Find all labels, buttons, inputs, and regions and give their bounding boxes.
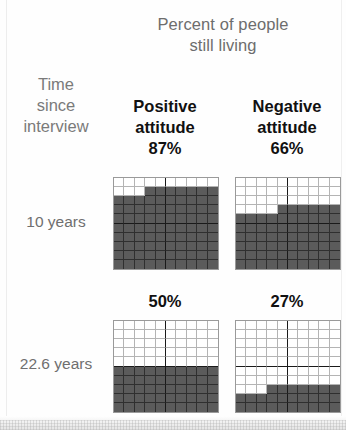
waffle-cell <box>187 321 197 330</box>
waffle-cell <box>278 178 288 187</box>
waffle-cell <box>156 357 166 366</box>
waffle-cell <box>187 196 197 205</box>
waffle-cell <box>319 339 329 348</box>
waffle-cell <box>246 321 256 330</box>
waffle-cell <box>156 321 166 330</box>
waffle-cell <box>208 385 218 394</box>
waffle-cell <box>330 224 340 233</box>
waffle-cell <box>309 205 319 214</box>
waffle-cell <box>257 242 267 251</box>
waffle-cell <box>176 205 186 214</box>
waffle-cell <box>288 214 298 223</box>
waffle-cell <box>176 330 186 339</box>
waffle-cell <box>309 394 319 403</box>
waffle-cell <box>135 242 145 251</box>
waffle-cell <box>298 260 308 269</box>
row-label-22-6-years: 22.6 years <box>4 355 108 373</box>
waffle-grid-negative-10-years <box>235 177 341 270</box>
waffle-cell <box>236 339 246 348</box>
waffle-cell <box>124 178 134 187</box>
waffle-cell <box>197 214 207 223</box>
waffle-cell <box>319 224 329 233</box>
waffle-cell <box>246 348 256 357</box>
waffle-cell <box>288 196 298 205</box>
waffle-cell <box>176 357 186 366</box>
waffle-cell <box>330 242 340 251</box>
waffle-cell <box>166 403 176 412</box>
waffle-cell <box>330 233 340 242</box>
waffle-cell <box>257 196 267 205</box>
waffle-cell <box>197 394 207 403</box>
waffle-cell <box>208 187 218 196</box>
waffle-cell <box>298 403 308 412</box>
waffle-cell <box>309 260 319 269</box>
waffle-cell <box>135 178 145 187</box>
waffle-cell <box>114 403 124 412</box>
waffle-cell <box>166 348 176 357</box>
waffle-cell <box>145 348 155 357</box>
waffle-cell <box>114 251 124 260</box>
waffle-grid-positive-10-years <box>113 177 219 270</box>
waffle-cell <box>288 187 298 196</box>
waffle-cell <box>187 385 197 394</box>
waffle-cell <box>197 233 207 242</box>
waffle-cell <box>187 214 197 223</box>
waffle-cell <box>156 233 166 242</box>
waffle-cell <box>236 260 246 269</box>
waffle-cell <box>309 187 319 196</box>
waffle-cell <box>257 214 267 223</box>
waffle-cell <box>257 339 267 348</box>
waffle-cell <box>298 376 308 385</box>
waffle-cell <box>278 376 288 385</box>
waffle-cell <box>236 187 246 196</box>
waffle-cell <box>145 214 155 223</box>
waffle-cell <box>298 187 308 196</box>
waffle-cell <box>197 348 207 357</box>
waffle-cell <box>156 330 166 339</box>
waffle-cell <box>309 403 319 412</box>
waffle-cell <box>267 385 277 394</box>
waffle-cell <box>197 251 207 260</box>
waffle-cell <box>166 224 176 233</box>
waffle-cell <box>114 214 124 223</box>
waffle-cell <box>176 339 186 348</box>
waffle-cell <box>176 385 186 394</box>
waffle-cell <box>298 178 308 187</box>
waffle-cell <box>246 242 256 251</box>
waffle-cell <box>114 178 124 187</box>
waffle-cell <box>176 233 186 242</box>
waffle-cell <box>197 321 207 330</box>
waffle-cell <box>208 224 218 233</box>
waffle-cell <box>197 178 207 187</box>
waffle-cell <box>145 205 155 214</box>
waffle-cell <box>114 376 124 385</box>
waffle-cell <box>319 348 329 357</box>
waffle-cell <box>124 330 134 339</box>
waffle-cell <box>267 339 277 348</box>
waffle-cell <box>257 251 267 260</box>
waffle-cell <box>330 205 340 214</box>
waffle-cell <box>197 260 207 269</box>
waffle-cell <box>166 214 176 223</box>
waffle-cell <box>124 376 134 385</box>
waffle-cell <box>166 385 176 394</box>
waffle-cell <box>156 394 166 403</box>
waffle-cell <box>135 321 145 330</box>
waffle-cell <box>114 394 124 403</box>
column-header-negative: Negative attitude 66% <box>227 96 346 159</box>
waffle-cell <box>176 251 186 260</box>
waffle-cell <box>309 196 319 205</box>
waffle-cell <box>288 357 298 366</box>
waffle-cell <box>257 376 267 385</box>
waffle-cell <box>124 339 134 348</box>
waffle-cell <box>197 224 207 233</box>
waffle-cell <box>145 260 155 269</box>
waffle-cell <box>288 251 298 260</box>
waffle-cell <box>298 205 308 214</box>
waffle-cell <box>197 196 207 205</box>
waffle-cell <box>166 205 176 214</box>
waffle-cell <box>309 330 319 339</box>
waffle-cell <box>187 339 197 348</box>
waffle-cell <box>187 233 197 242</box>
waffle-cell <box>267 260 277 269</box>
